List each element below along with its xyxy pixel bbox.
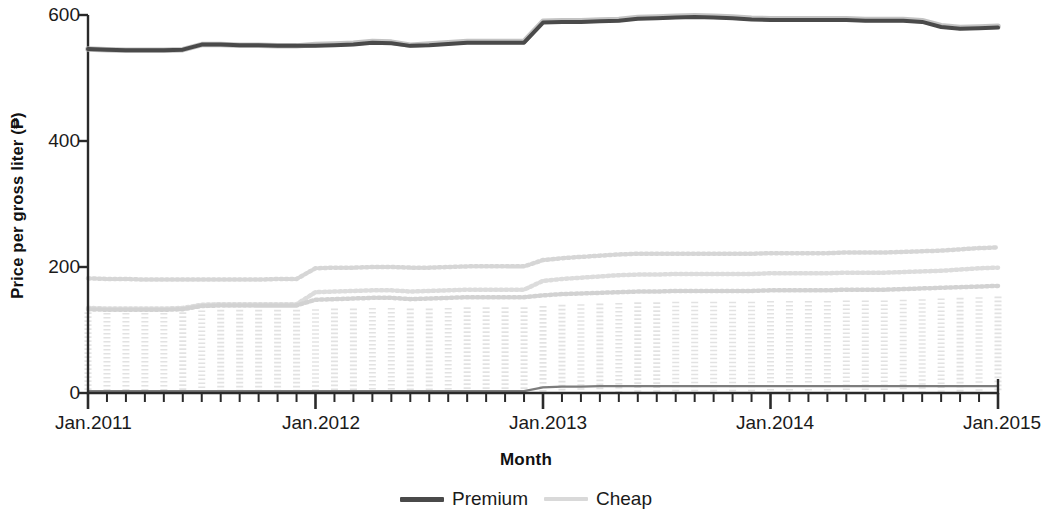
x-tick-label-jan-2012: Jan.2012 — [282, 412, 360, 434]
legend-label-premium: Premium — [452, 488, 528, 510]
legend-item-premium: Premium — [400, 488, 528, 510]
chart-figure: Price per gross liter (₱) 600 400 200 0 … — [0, 0, 1052, 518]
series-line-premium — [88, 17, 998, 50]
legend-label-cheap: Cheap — [596, 488, 652, 510]
x-tick-label-jan-2011: Jan.2011 — [55, 412, 132, 434]
legend-swatch-premium — [400, 497, 444, 502]
legend-item-cheap: Cheap — [544, 488, 652, 510]
x-tick-label-jan-2014: Jan.2014 — [736, 412, 814, 434]
x-tick-label-jan-2013: Jan.2013 — [509, 412, 587, 434]
legend-swatch-cheap — [544, 497, 588, 501]
x-tick-label-jan-2015: Jan.2015 — [963, 412, 1041, 434]
axis-lines — [88, 15, 998, 393]
chart-legend: Premium Cheap — [0, 488, 1052, 510]
plot-area — [0, 0, 1052, 410]
x-axis-title: Month — [0, 450, 1052, 470]
